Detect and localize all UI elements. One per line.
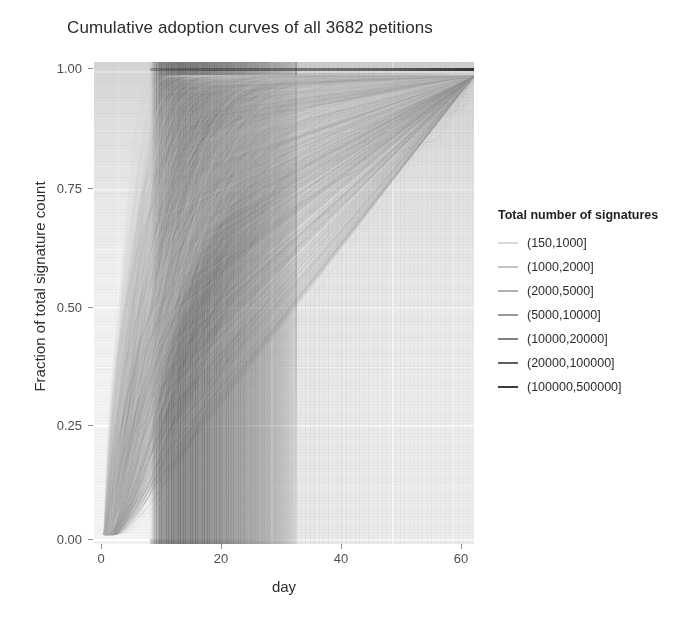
y-tick-mark-000 xyxy=(88,539,93,540)
y-tick-mark-075 xyxy=(88,188,93,189)
legend-item-label: (100000,500000] xyxy=(527,380,622,394)
x-tick-label-20: 20 xyxy=(201,551,241,566)
legend-key-line-icon xyxy=(498,266,518,269)
y-tick-mark-025 xyxy=(88,425,93,426)
x-tick-label-40: 40 xyxy=(321,551,361,566)
x-tick-mark-60 xyxy=(461,544,462,549)
legend-item-label: (150,1000] xyxy=(527,236,587,250)
plot-panel xyxy=(94,62,474,544)
x-axis-title: day xyxy=(94,578,474,595)
legend-item-4[interactable]: (10000,20000] xyxy=(498,327,658,351)
x-tick-label-60: 60 xyxy=(441,551,481,566)
legend-item-label: (2000,5000] xyxy=(527,284,594,298)
legend-item-0[interactable]: (150,1000] xyxy=(498,231,658,255)
chart-title: Cumulative adoption curves of all 3682 p… xyxy=(0,18,500,38)
x-tick-mark-20 xyxy=(221,544,222,549)
x-tick-mark-0 xyxy=(101,544,102,549)
legend-item-label: (1000,2000] xyxy=(527,260,594,274)
legend-item-5[interactable]: (20000,100000] xyxy=(498,351,658,375)
legend-item-1[interactable]: (1000,2000] xyxy=(498,255,658,279)
y-tick-label-000: 0.00 xyxy=(36,532,82,547)
legend-item-label: (10000,20000] xyxy=(527,332,608,346)
x-tick-label-0: 0 xyxy=(81,551,121,566)
legend-item-2[interactable]: (2000,5000] xyxy=(498,279,658,303)
legend-key-line-icon xyxy=(498,362,518,365)
y-tick-mark-050 xyxy=(88,307,93,308)
y-axis-title: Fraction of total signature count xyxy=(31,147,48,427)
legend-item-3[interactable]: (5000,10000] xyxy=(498,303,658,327)
y-tick-mark-100 xyxy=(88,68,93,69)
legend-key-line-icon xyxy=(498,242,518,245)
legend-key-line-icon xyxy=(498,386,518,389)
curve-cloud-canvas xyxy=(94,62,474,544)
legend-title: Total number of signatures xyxy=(498,208,658,222)
y-tick-label-100: 1.00 xyxy=(36,61,82,76)
legend-key-line-icon xyxy=(498,338,518,341)
legend-item-label: (5000,10000] xyxy=(527,308,601,322)
legend-item-6[interactable]: (100000,500000] xyxy=(498,375,658,399)
legend-key-line-icon xyxy=(498,314,518,317)
x-tick-mark-40 xyxy=(341,544,342,549)
legend-key-line-icon xyxy=(498,290,518,293)
legend: Total number of signatures (150,1000] (1… xyxy=(498,208,658,399)
legend-item-label: (20000,100000] xyxy=(527,356,615,370)
